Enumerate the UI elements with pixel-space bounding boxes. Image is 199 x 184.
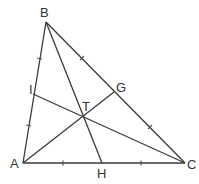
median-bh (46, 22, 102, 163)
label-i: I (29, 82, 33, 97)
median-ci (33, 94, 185, 163)
side-ab (23, 22, 46, 163)
label-a: A (10, 156, 19, 171)
label-g: G (116, 80, 126, 95)
label-t: T (82, 99, 90, 114)
tick-ab-upper (37, 58, 42, 59)
tick-ab-lower (26, 125, 31, 126)
label-h: H (97, 166, 106, 181)
label-b: B (40, 5, 49, 20)
label-c: C (187, 157, 196, 172)
median-ag (23, 92, 114, 163)
triangle-diagram: B A C H G I T (0, 0, 199, 184)
